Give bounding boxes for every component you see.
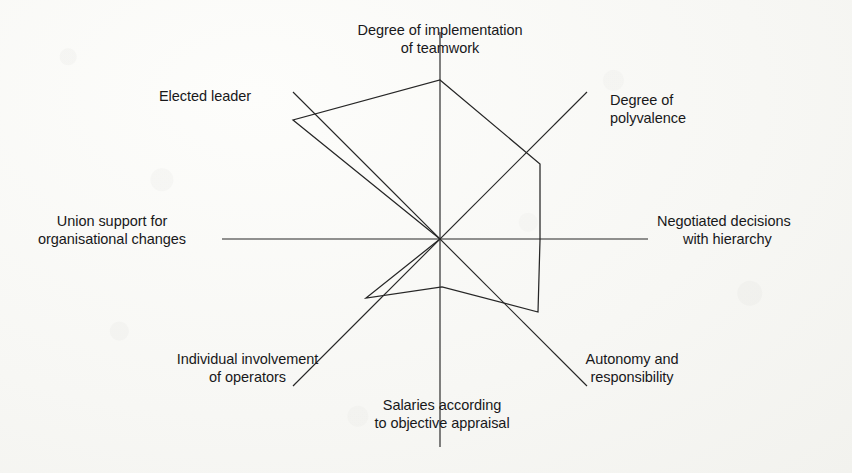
- axis-label-autonomy-line2: responsibility: [547, 369, 717, 387]
- axis-label-salaries-line1: Salaries according: [338, 397, 546, 415]
- axis-label-negotiated-line2: with hierarchy: [657, 231, 852, 249]
- axis-label-polyvalence-line2: polyvalence: [610, 110, 810, 128]
- axis-label-teamwork-line2: of teamwork: [299, 40, 581, 58]
- axis-label-union-support: Union support for organisational changes: [8, 213, 216, 248]
- axis-label-individual-line2: of operators: [140, 369, 355, 387]
- axis-label-autonomy: Autonomy and responsibility: [547, 351, 717, 386]
- radar-data-polygon: [293, 80, 540, 312]
- axis-label-teamwork: Degree of implementation of teamwork: [299, 22, 581, 57]
- axis-label-teamwork-line1: Degree of implementation: [299, 22, 581, 40]
- axis-label-individual-line1: Individual involvement: [140, 351, 355, 369]
- axis-label-polyvalence-line1: Degree of: [610, 92, 810, 110]
- axis-label-salaries: Salaries according to objective appraisa…: [338, 397, 546, 432]
- axis-label-negotiated-line1: Negotiated decisions: [657, 213, 852, 231]
- axis-label-union-line2: organisational changes: [8, 231, 216, 249]
- figure-canvas: Degree of implementation of teamwork Deg…: [0, 0, 852, 473]
- axis-label-polyvalence: Degree of polyvalence: [610, 92, 810, 127]
- axis-label-elected-line1: Elected leader: [131, 88, 279, 106]
- axis-label-salaries-line2: to objective appraisal: [338, 415, 546, 433]
- axis-label-union-line1: Union support for: [8, 213, 216, 231]
- axis-label-individual-involvement: Individual involvement of operators: [140, 351, 355, 386]
- axis-label-autonomy-line1: Autonomy and: [547, 351, 717, 369]
- axis-label-elected-leader: Elected leader: [131, 88, 279, 106]
- axis-label-negotiated-decisions: Negotiated decisions with hierarchy: [657, 213, 852, 248]
